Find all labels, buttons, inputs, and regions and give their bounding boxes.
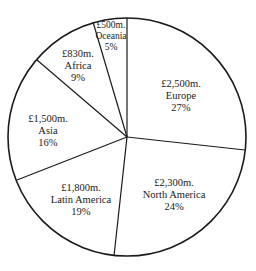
oceania-percent: 5% [95,42,126,53]
north-america-value: £2,300m. [143,177,206,189]
slice-label-asia: £1,500m. Asia 16% [28,113,68,149]
latin-america-region: Latin America [51,194,111,206]
africa-value: £830m. [62,48,94,60]
north-america-region: North America [143,189,206,201]
latin-america-value: £1,800m. [51,182,111,194]
africa-region: Africa [62,60,94,72]
africa-percent: 9% [62,72,94,84]
europe-region: Europe [161,90,201,102]
slice-label-oceania: £500m. Oceania 5% [95,20,126,53]
latin-america-percent: 19% [51,206,111,218]
europe-percent: 27% [161,102,201,114]
oceania-region: Oceania [95,31,126,42]
slice-label-africa: £830m. Africa 9% [62,48,94,84]
north-america-percent: 24% [143,201,206,213]
asia-percent: 16% [28,137,68,149]
asia-region: Asia [28,125,68,137]
europe-value: £2,500m. [161,78,201,90]
asia-value: £1,500m. [28,113,68,125]
oceania-value: £500m. [95,20,126,31]
slice-label-latin-america: £1,800m. Latin America 19% [51,182,111,218]
slice-label-north-america: £2,300m. North America 24% [143,177,206,213]
slice-label-europe: £2,500m. Europe 27% [161,78,201,114]
